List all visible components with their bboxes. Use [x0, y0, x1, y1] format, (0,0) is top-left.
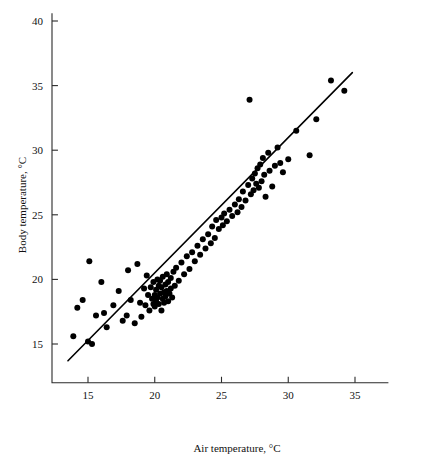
- data-point: [261, 172, 267, 178]
- data-point: [205, 231, 211, 237]
- data-point: [158, 307, 164, 313]
- data-point: [269, 183, 275, 189]
- data-point: [245, 182, 251, 188]
- data-point: [181, 271, 187, 277]
- data-point: [124, 313, 130, 319]
- data-point: [212, 235, 218, 241]
- data-point: [229, 213, 235, 219]
- data-point: [186, 266, 192, 272]
- data-point: [146, 307, 152, 313]
- y-axis-ticks: [52, 21, 58, 344]
- data-point: [125, 267, 131, 273]
- data-point: [168, 275, 174, 281]
- y-tick-label-40: 40: [32, 15, 44, 27]
- data-point: [232, 201, 238, 207]
- data-point: [252, 170, 258, 176]
- data-point: [176, 278, 182, 284]
- x-axis-ticks: [88, 377, 355, 383]
- data-point: [213, 217, 219, 223]
- data-point: [98, 279, 104, 285]
- data-point: [70, 333, 76, 339]
- data-point: [89, 341, 95, 347]
- data-point: [257, 161, 263, 167]
- data-point: [132, 320, 138, 326]
- plot-area: 1520253035 152025303540 Air temperature,…: [16, 13, 388, 454]
- data-point: [144, 273, 150, 279]
- data-point: [280, 169, 286, 175]
- data-point: [184, 253, 190, 259]
- data-point: [265, 150, 271, 156]
- data-point: [189, 249, 195, 255]
- y-tick-label-30: 30: [32, 144, 44, 156]
- data-point: [235, 209, 241, 215]
- data-point: [93, 313, 99, 319]
- data-point: [256, 185, 262, 191]
- data-point: [110, 302, 116, 308]
- data-point: [260, 155, 266, 161]
- data-point: [293, 128, 299, 134]
- data-point: [148, 284, 154, 290]
- data-point: [227, 207, 233, 213]
- data-point: [101, 310, 107, 316]
- y-tick-label-20: 20: [32, 273, 44, 285]
- data-point: [173, 265, 179, 271]
- x-tick-label-20: 20: [149, 389, 161, 401]
- data-point: [74, 305, 80, 311]
- data-point: [249, 176, 255, 182]
- data-point: [243, 198, 249, 204]
- chart-canvas: 1520253035 152025303540 Air temperature,…: [0, 0, 426, 462]
- data-point: [128, 297, 134, 303]
- y-tick-label-35: 35: [32, 80, 44, 92]
- data-point: [239, 204, 245, 210]
- data-point: [259, 178, 265, 184]
- x-tick-label-35: 35: [350, 389, 362, 401]
- data-points: [70, 77, 347, 347]
- x-tick-label-30: 30: [283, 389, 295, 401]
- data-point: [134, 261, 140, 267]
- data-point: [86, 258, 92, 264]
- data-point: [224, 218, 230, 224]
- data-point: [192, 258, 198, 264]
- x-tick-label-25: 25: [216, 389, 228, 401]
- data-point: [251, 187, 257, 193]
- data-point: [172, 283, 178, 289]
- data-point: [277, 160, 283, 166]
- data-point: [328, 77, 334, 83]
- data-point: [169, 294, 175, 300]
- data-point: [247, 97, 253, 103]
- y-tick-label-15: 15: [32, 338, 44, 350]
- x-axis-title: Air temperature, °C: [193, 442, 280, 454]
- data-point: [341, 88, 347, 94]
- data-point: [194, 243, 200, 249]
- data-point: [307, 152, 313, 158]
- regression-line: [68, 73, 352, 361]
- data-point: [120, 318, 126, 324]
- data-point: [267, 168, 273, 174]
- y-axis-title: Body temperature, °C: [16, 157, 28, 253]
- x-tick-label-15: 15: [83, 389, 95, 401]
- data-point: [104, 324, 110, 330]
- data-point: [209, 223, 215, 229]
- data-point: [285, 156, 291, 162]
- scatter-plot-figure: 1520253035 152025303540 Air temperature,…: [0, 0, 426, 462]
- data-point: [142, 302, 148, 308]
- data-point: [137, 300, 143, 306]
- data-point: [221, 211, 227, 217]
- data-point: [178, 260, 184, 266]
- data-point: [116, 288, 122, 294]
- data-point: [80, 297, 86, 303]
- data-point: [313, 116, 319, 122]
- data-point: [272, 163, 278, 169]
- axes-lines: [52, 13, 388, 383]
- data-point: [197, 252, 203, 258]
- data-point: [263, 194, 269, 200]
- y-axis-tick-labels: 152025303540: [32, 15, 44, 350]
- data-point: [275, 145, 281, 151]
- data-point: [236, 196, 242, 202]
- data-point: [141, 285, 147, 291]
- y-tick-label-25: 25: [32, 209, 44, 221]
- data-point: [138, 314, 144, 320]
- data-point: [202, 245, 208, 251]
- x-axis-tick-labels: 1520253035: [83, 389, 362, 401]
- data-point: [156, 301, 162, 307]
